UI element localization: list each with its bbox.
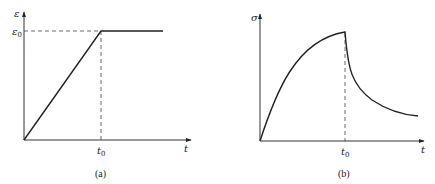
panel-a-eps0-label: ε0: [12, 26, 22, 39]
panel-b-y-label: σ: [251, 12, 259, 23]
figure-canvas: ε ε0 t0 t (a) σ t0 t (b): [0, 0, 435, 184]
panel-a-caption: (a): [95, 168, 106, 180]
panel-b-caption: (b): [338, 168, 350, 180]
panel-a-x-label: t: [184, 143, 189, 154]
panel-a-y-label: ε: [14, 8, 19, 19]
panel-b-x-label: t: [421, 144, 426, 155]
panel-a-strain-curve: [24, 31, 163, 140]
panel-a: ε ε0 t0 t (a): [12, 8, 191, 180]
panel-a-t0-label: t0: [97, 145, 106, 158]
panel-b: σ t0 t (b): [251, 12, 426, 180]
panel-b-t0-label: t0: [341, 146, 350, 159]
panel-b-stress-curve: [260, 32, 418, 141]
